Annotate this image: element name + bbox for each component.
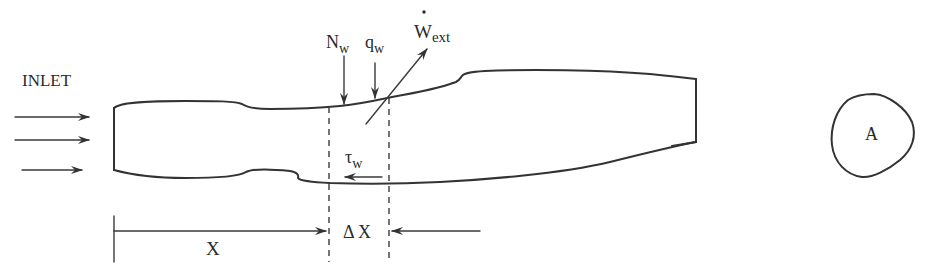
inlet-label: INLET xyxy=(22,71,72,90)
area-label: A xyxy=(865,124,878,144)
x-distance-label: X xyxy=(206,238,220,259)
work-dot-accent xyxy=(422,10,425,13)
duct-control-volume-diagram: INLET Nw qw Wext τw X Δ X xyxy=(0,0,937,272)
delta-x-label: Δ X xyxy=(343,222,371,242)
